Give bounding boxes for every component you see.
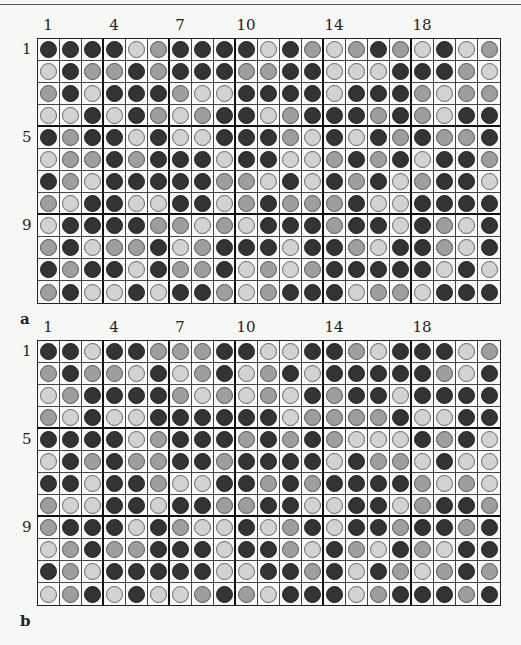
circle-light-icon xyxy=(260,343,277,360)
circle-medium-icon xyxy=(40,519,57,536)
column-label: 1 xyxy=(43,318,53,336)
grid-cell xyxy=(82,105,104,127)
circle-dark-icon xyxy=(370,85,387,102)
row-label: 5 xyxy=(22,430,32,448)
grid-cell xyxy=(368,561,390,583)
grid-cell xyxy=(192,473,214,495)
grid-cell xyxy=(280,583,302,605)
circle-dark-icon xyxy=(481,107,498,124)
grid-cell xyxy=(60,583,82,605)
circle-dark-icon xyxy=(84,586,101,603)
circle-dark-icon xyxy=(150,239,167,256)
circle-light-icon xyxy=(40,586,57,603)
grid-cell xyxy=(346,363,368,385)
circle-light-icon xyxy=(84,239,101,256)
top-rule xyxy=(0,4,521,5)
circle-dark-icon xyxy=(260,409,277,426)
grid-cell xyxy=(192,407,214,429)
circle-medium-icon xyxy=(194,107,211,124)
circle-dark-icon xyxy=(106,453,123,470)
circle-light-icon xyxy=(84,563,101,580)
grid-cell xyxy=(126,473,148,495)
circle-light-icon xyxy=(40,453,57,470)
grid-cell xyxy=(434,237,456,259)
circle-dark-icon xyxy=(348,107,365,124)
circle-dark-icon xyxy=(326,365,343,382)
circle-medium-icon xyxy=(414,475,431,492)
circle-medium-icon xyxy=(238,497,255,514)
circle-dark-icon xyxy=(172,431,189,448)
grid-cell xyxy=(280,407,302,429)
circle-light-icon xyxy=(326,85,343,102)
circle-dark-icon xyxy=(172,173,189,190)
grid-cell xyxy=(170,259,192,281)
circle-medium-icon xyxy=(458,85,475,102)
grid-cell xyxy=(236,583,258,605)
grid-cell xyxy=(456,259,478,281)
grid-cell xyxy=(60,193,82,215)
grid-cell xyxy=(456,127,478,149)
grid-cell xyxy=(214,517,236,539)
grid-cell xyxy=(236,341,258,363)
grid-cell xyxy=(324,237,346,259)
circle-dark-icon xyxy=(370,387,387,404)
circle-dark-icon xyxy=(326,239,343,256)
circle-dark-icon xyxy=(106,85,123,102)
grid-cell xyxy=(478,149,500,171)
grid-cell xyxy=(368,363,390,385)
grid-cell xyxy=(192,281,214,303)
circle-dark-icon xyxy=(304,284,321,301)
circle-dark-icon xyxy=(238,453,255,470)
circle-medium-icon xyxy=(40,365,57,382)
grid-cell xyxy=(324,149,346,171)
circle-dark-icon xyxy=(348,217,365,234)
grid-cell xyxy=(324,259,346,281)
grid-cell xyxy=(170,127,192,149)
grid-cell xyxy=(258,83,280,105)
circle-medium-icon xyxy=(348,409,365,426)
grid-cell xyxy=(148,341,170,363)
grid-cell xyxy=(346,561,368,583)
grid-cell xyxy=(104,61,126,83)
grid-cell xyxy=(258,193,280,215)
circle-dark-icon xyxy=(150,365,167,382)
circle-light-icon xyxy=(282,387,299,404)
grid-cell xyxy=(170,39,192,61)
grid-cell xyxy=(38,561,60,583)
circle-light-icon xyxy=(348,129,365,146)
grid-cell xyxy=(390,451,412,473)
circle-dark-icon xyxy=(414,195,431,212)
grid-cell xyxy=(104,127,126,149)
grid-cell xyxy=(60,341,82,363)
circle-light-icon xyxy=(260,107,277,124)
circle-light-icon xyxy=(370,431,387,448)
grid-cell xyxy=(280,341,302,363)
grid-cell xyxy=(126,385,148,407)
grid-cell xyxy=(324,39,346,61)
grid-cell xyxy=(82,83,104,105)
grid-cell xyxy=(104,517,126,539)
grid-cell xyxy=(302,193,324,215)
circle-dark-icon xyxy=(304,431,321,448)
grid-cell xyxy=(302,259,324,281)
circle-medium-icon xyxy=(326,431,343,448)
circle-medium-icon xyxy=(481,151,498,168)
grid-cell xyxy=(82,539,104,561)
circle-light-icon xyxy=(304,173,321,190)
grid-cell xyxy=(60,385,82,407)
circle-dark-icon xyxy=(370,475,387,492)
circle-dark-icon xyxy=(260,195,277,212)
grid-cell xyxy=(214,473,236,495)
column-label: 14 xyxy=(324,318,343,336)
circle-dark-icon xyxy=(326,284,343,301)
grid-cell xyxy=(148,259,170,281)
grid-cell xyxy=(38,237,60,259)
circle-medium-icon xyxy=(40,497,57,514)
grid-cell xyxy=(324,583,346,605)
circle-light-icon xyxy=(348,284,365,301)
grid-cell xyxy=(214,281,236,303)
circle-medium-icon xyxy=(62,261,79,278)
circle-medium-icon xyxy=(458,519,475,536)
grid-cell xyxy=(126,83,148,105)
circle-medium-icon xyxy=(348,239,365,256)
